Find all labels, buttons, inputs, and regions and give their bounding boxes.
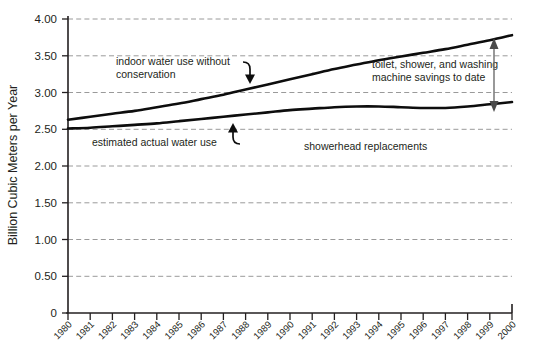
showerhead-callout-text: showerhead replacements: [304, 140, 427, 152]
y-axis-title: Billion Cubic Meters per Year: [6, 85, 20, 246]
upper-callout-line1: indoor water use without: [116, 55, 230, 67]
y-tick-label: 0: [51, 307, 57, 319]
gap-callout-line1: toilet, shower, and washing: [372, 58, 498, 70]
gap-callout-line2: machine savings to date: [372, 71, 485, 83]
y-tick-label: 2.00: [35, 160, 57, 172]
y-tick-label: 4.00: [35, 13, 57, 25]
y-tick-label: 1.00: [35, 234, 57, 246]
chart-background: [0, 0, 536, 357]
y-tick-label: 0.50: [35, 270, 57, 282]
x-tickmarks: [68, 313, 512, 320]
y-tick-label: 2.50: [35, 123, 57, 135]
chart-container: 4.00 3.50 3.00 2.50 2.00 1.50 1.00 0.50 …: [0, 0, 536, 357]
lower-callout-text: estimated actual water use: [92, 136, 217, 148]
water-use-line-chart: 4.00 3.50 3.00 2.50 2.00 1.50 1.00 0.50 …: [0, 0, 536, 357]
y-tick-label: 3.50: [35, 50, 57, 62]
upper-callout-line2: conservation: [116, 68, 176, 80]
y-tick-label: 1.50: [35, 197, 57, 209]
y-axis-tick-labels: 4.00 3.50 3.00 2.50 2.00 1.50 1.00 0.50 …: [35, 13, 57, 319]
y-tick-label: 3.00: [35, 87, 57, 99]
